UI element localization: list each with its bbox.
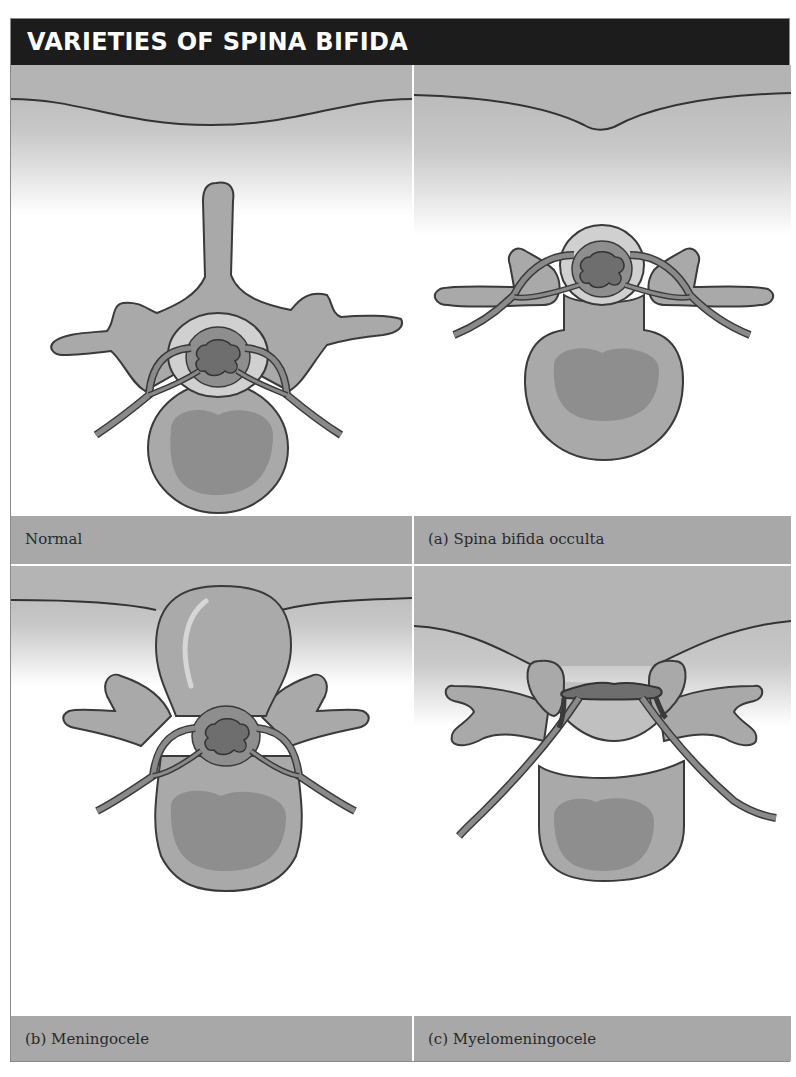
meningocele-icon [11, 566, 412, 1016]
panel-meningocele [11, 566, 412, 1016]
panel-normal [11, 65, 412, 516]
caption-normal: Normal [11, 516, 412, 564]
caption-myelomeningocele: (c) Myelomeningocele [414, 1016, 791, 1061]
figure-title: VARIETIES OF SPINA BIFIDA [27, 28, 408, 56]
panel-spina-bifida-occulta [414, 65, 791, 516]
panel-divider-vertical [412, 65, 414, 1061]
panel-divider-horizontal [11, 564, 791, 566]
panel-myelomeningocele [414, 566, 791, 1016]
figure-frame: VARIETIES OF SPINA BIFIDA [10, 18, 790, 1062]
myelomeningocele-icon [414, 566, 791, 1016]
figure-header: VARIETIES OF SPINA BIFIDA [11, 19, 789, 65]
spina-bifida-occulta-icon [414, 65, 791, 516]
caption-spina-bifida-occulta: (a) Spina bifida occulta [414, 516, 791, 564]
normal-vertebra-icon [11, 65, 412, 516]
caption-meningocele: (b) Meningocele [11, 1016, 412, 1061]
